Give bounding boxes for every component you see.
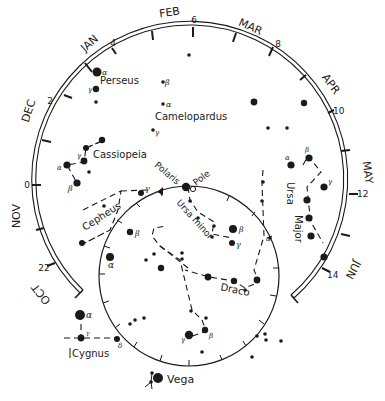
svg-text:α: α bbox=[285, 154, 290, 162]
month-labels: JAN FEB MAR APR MAY JUN DEC NOV OCT bbox=[10, 5, 376, 308]
svg-text:γ: γ bbox=[328, 178, 333, 186]
label-draco: Draco bbox=[220, 281, 251, 298]
svg-text:γ: γ bbox=[86, 329, 90, 337]
svg-text:γ: γ bbox=[181, 336, 186, 344]
month-nov: NOV bbox=[10, 203, 23, 228]
svg-text:β: β bbox=[208, 332, 213, 340]
label-polaris: Polaris bbox=[153, 160, 182, 187]
hour-22: 22 bbox=[38, 263, 49, 273]
star-polaris bbox=[182, 183, 190, 191]
label-perseus: Perseus bbox=[100, 75, 139, 86]
svg-text:γ: γ bbox=[145, 184, 150, 193]
label-cepheus: Cepheus bbox=[80, 200, 122, 233]
hour-14: 14 bbox=[327, 270, 339, 280]
label-camelopardus: Camelopardus bbox=[155, 111, 227, 122]
svg-text:α: α bbox=[57, 164, 62, 172]
month-oct: OCT bbox=[29, 281, 54, 307]
svg-text:β: β bbox=[134, 229, 140, 238]
label-major: Major bbox=[293, 215, 304, 244]
star-chart: JAN FEB MAR APR MAY JUN DEC NOV OCT 4 6 … bbox=[0, 0, 385, 401]
month-feb: FEB bbox=[158, 5, 180, 21]
month-jun: JUN bbox=[343, 257, 364, 281]
svg-text:γ: γ bbox=[155, 129, 160, 137]
month-mar: MAR bbox=[237, 16, 265, 38]
month-jan: JAN bbox=[78, 32, 101, 55]
hour-8: 8 bbox=[275, 39, 281, 49]
hour-12: 12 bbox=[357, 189, 368, 199]
pole-marker bbox=[190, 186, 195, 191]
svg-text:γ: γ bbox=[88, 86, 93, 94]
star-vega bbox=[153, 373, 163, 383]
star-cygnus-alpha bbox=[75, 310, 85, 320]
svg-text:δ: δ bbox=[118, 342, 122, 350]
svg-text:β: β bbox=[164, 78, 170, 87]
hour-0: 0 bbox=[24, 180, 30, 190]
label-ursa: Ursa bbox=[285, 182, 296, 205]
hour-6: 6 bbox=[191, 15, 197, 25]
label-cassiopeia: Cassiopeia bbox=[93, 149, 147, 160]
svg-text:β: β bbox=[238, 225, 244, 234]
constellation-lines bbox=[64, 141, 323, 338]
label-vega: Vega bbox=[167, 373, 194, 386]
hour-4: 4 bbox=[110, 38, 116, 48]
hour-labels: 4 6 8 10 12 14 2 0 22 bbox=[24, 15, 368, 280]
svg-text:α: α bbox=[166, 100, 172, 109]
svg-text:β: β bbox=[67, 184, 73, 193]
constellation-names: Perseus Camelopardus Cassiopeia Cepheus … bbox=[72, 75, 304, 386]
svg-text:α: α bbox=[108, 260, 114, 270]
svg-text:α: α bbox=[266, 235, 271, 243]
svg-text:γ: γ bbox=[236, 240, 241, 249]
svg-text:β: β bbox=[304, 146, 309, 154]
svg-text:γ: γ bbox=[77, 152, 82, 160]
month-dec: DEC bbox=[19, 98, 39, 124]
label-cygnus: Cygnus bbox=[72, 348, 109, 359]
month-may: MAY bbox=[359, 160, 375, 185]
hour-2: 2 bbox=[47, 96, 53, 106]
svg-text:α: α bbox=[86, 310, 92, 320]
label-pole: Pole bbox=[191, 168, 212, 188]
hour-10: 10 bbox=[333, 106, 345, 116]
